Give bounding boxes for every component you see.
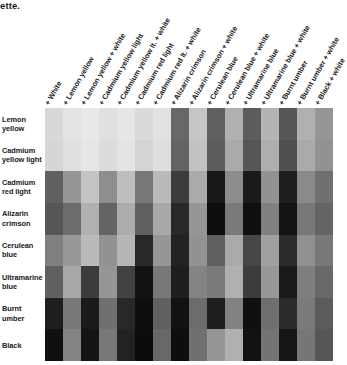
swatch-cell (171, 329, 189, 361)
swatch-cell (171, 140, 189, 172)
swatch-cell (135, 298, 153, 330)
swatch-cell (153, 235, 171, 267)
swatch-cell (135, 108, 153, 140)
row-label-5: Ultramarineblue (2, 273, 44, 291)
swatch-cell (225, 266, 243, 298)
swatch-cell (207, 140, 225, 172)
swatch-cell (81, 171, 99, 203)
swatch-cell (189, 266, 207, 298)
swatch-cell (99, 329, 117, 361)
swatch-cell (63, 140, 81, 172)
swatch-cell (135, 266, 153, 298)
swatch-cell (117, 140, 135, 172)
swatch-cell (225, 108, 243, 140)
swatch-cell (135, 203, 153, 235)
swatch-cell (243, 203, 261, 235)
swatch-cell (99, 298, 117, 330)
swatch-cell (117, 235, 135, 267)
swatch-cell (153, 329, 171, 361)
swatch-cell (207, 235, 225, 267)
row-label-7: Black (2, 341, 44, 350)
swatch-cell (279, 108, 297, 140)
swatch-cell (171, 171, 189, 203)
row-label-2: Cadmiumred light (2, 178, 44, 196)
swatch-cell (63, 266, 81, 298)
swatch-cell (261, 298, 279, 330)
swatch-cell (153, 203, 171, 235)
swatch-cell (117, 203, 135, 235)
swatch-cell (315, 140, 333, 172)
swatch-cell (45, 108, 63, 140)
swatch-cell (261, 235, 279, 267)
swatch-cell (297, 108, 315, 140)
swatch-cell (117, 171, 135, 203)
swatch-cell (297, 298, 315, 330)
swatch-cell (117, 298, 135, 330)
swatch-cell (297, 329, 315, 361)
swatch-cell (225, 203, 243, 235)
swatch-cell (99, 266, 117, 298)
swatch-cell (81, 203, 99, 235)
swatch-cell (45, 266, 63, 298)
swatch-cell (261, 266, 279, 298)
swatch-cell (117, 266, 135, 298)
swatch-cell (261, 108, 279, 140)
swatch-cell (63, 298, 81, 330)
row-label-1: Cadmiumyellow light (2, 146, 44, 164)
swatch-cell (171, 235, 189, 267)
swatch-cell (225, 140, 243, 172)
swatch-cell (99, 108, 117, 140)
row-label-0: Lemonyellow (2, 115, 44, 133)
row-label-4: Ceruleanblue (2, 241, 44, 259)
swatch-cell (297, 266, 315, 298)
swatch-cell (297, 235, 315, 267)
swatch-cell (297, 171, 315, 203)
swatch-cell (189, 235, 207, 267)
row-label-column: LemonyellowCadmiumyellow lightCadmiumred… (2, 108, 44, 361)
swatch-cell (45, 235, 63, 267)
swatch-cell (261, 329, 279, 361)
column-header-band: + White+ Lemon yellow+ Lemon yellow + wh… (45, 0, 333, 108)
swatch-cell (297, 140, 315, 172)
swatch-cell (153, 171, 171, 203)
swatch-cell (81, 235, 99, 267)
swatch-cell (63, 171, 81, 203)
swatch-cell (153, 266, 171, 298)
swatch-cell (207, 203, 225, 235)
swatch-cell (315, 329, 333, 361)
swatch-cell (81, 140, 99, 172)
swatch-cell (81, 329, 99, 361)
swatch-cell (297, 203, 315, 235)
swatch-cell (99, 171, 117, 203)
swatch-cell (243, 298, 261, 330)
swatch-cell (171, 203, 189, 235)
swatch-cell (189, 203, 207, 235)
swatch-cell (243, 140, 261, 172)
swatch-cell (81, 298, 99, 330)
swatch-cell (135, 140, 153, 172)
swatch-cell (279, 298, 297, 330)
swatch-cell (207, 298, 225, 330)
swatch-cell (135, 235, 153, 267)
swatch-cell (279, 140, 297, 172)
row-label-6: Burntumber (2, 304, 44, 322)
swatch-cell (243, 235, 261, 267)
swatch-cell (99, 203, 117, 235)
swatch-cell (45, 329, 63, 361)
swatch-cell (279, 171, 297, 203)
swatch-cell (117, 329, 135, 361)
swatch-cell (189, 108, 207, 140)
swatch-cell (45, 298, 63, 330)
swatch-cell (315, 171, 333, 203)
swatch-cell (279, 266, 297, 298)
swatch-cell (315, 266, 333, 298)
swatch-cell (153, 108, 171, 140)
swatch-cell (63, 329, 81, 361)
swatch-cell (117, 108, 135, 140)
swatch-cell (171, 266, 189, 298)
swatch-cell (45, 203, 63, 235)
swatch-cell (207, 329, 225, 361)
swatch-cell (189, 298, 207, 330)
swatch-cell (81, 266, 99, 298)
swatch-cell (99, 140, 117, 172)
